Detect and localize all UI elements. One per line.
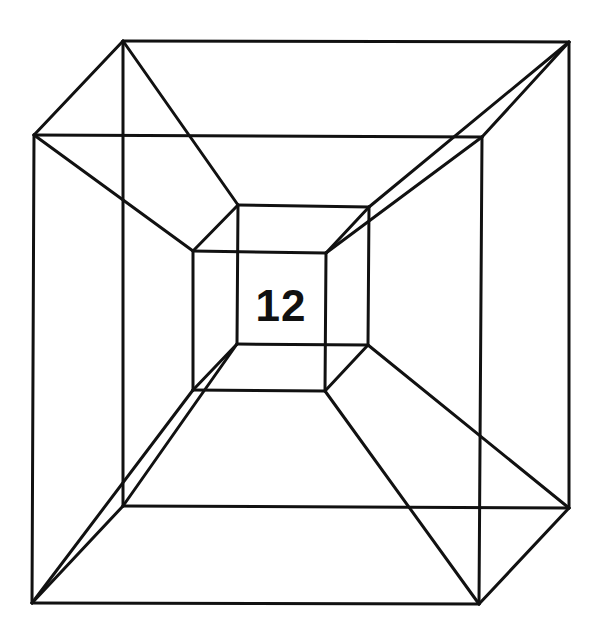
edge-inner_front_br-inner_front_bl <box>193 390 325 391</box>
edge-inner_back_tr-inner_front_tr <box>326 207 369 253</box>
edge-inner_front_tl-inner_front_tr <box>193 251 326 253</box>
edge-inner_back_bl-inner_back_tl <box>237 205 238 344</box>
edge-outer_back_tl-outer_back_tr <box>123 41 569 42</box>
edge-outer_front_br-inner_front_br <box>325 391 479 604</box>
edge-outer_back_br-inner_back_br <box>368 345 569 508</box>
edge-outer_back_br-outer_back_bl <box>123 506 569 508</box>
edge-outer_front_tl-outer_front_tr <box>34 135 482 137</box>
edge-outer_front_bl-outer_front_tl <box>32 135 34 603</box>
edge-outer_back_bl-inner_back_bl <box>123 344 237 506</box>
edge-outer_front_br-outer_front_bl <box>32 603 479 604</box>
edge-outer_back_tr-outer_front_tr <box>482 42 569 137</box>
edge-outer_back_br-outer_front_br <box>479 508 569 604</box>
edge-inner_back_tr-inner_back_br <box>368 207 369 345</box>
edge-outer_back_bl-outer_front_bl <box>32 506 123 603</box>
edge-outer_back_tr-inner_back_tr <box>369 42 569 207</box>
edge-inner_front_tr-inner_front_br <box>325 253 326 391</box>
edge-inner_back_tl-inner_back_tr <box>238 205 369 207</box>
edge-outer_front_tr-outer_front_br <box>479 137 482 604</box>
edge-outer_front_bl-inner_front_bl <box>32 390 193 603</box>
edge-inner_back_tl-inner_front_tl <box>193 205 238 251</box>
figure-number-label: 12 <box>250 283 312 329</box>
edge-inner_back_br-inner_front_br <box>325 345 368 391</box>
edge-outer_back_tl-inner_back_tl <box>123 41 238 205</box>
edge-inner_back_br-inner_back_bl <box>237 344 368 345</box>
edge-outer_front_tl-inner_front_tl <box>34 135 193 251</box>
edge-outer_front_tr-inner_front_tr <box>326 137 482 253</box>
edge-outer_back_tl-outer_front_tl <box>34 41 123 135</box>
